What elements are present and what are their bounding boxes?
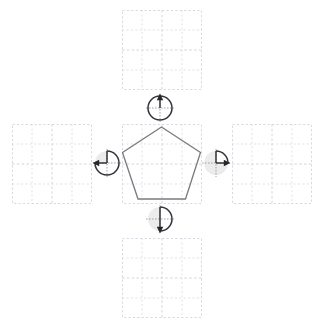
rotation-dial-bottom[interactable]: 180° [146,205,174,233]
top-panel[interactable] [122,10,202,90]
center-panel[interactable] [122,124,202,204]
scene-svg: 360°270°90°180° [0,0,316,321]
left-panel[interactable] [12,124,92,204]
puzzle-canvas: 360°270°90°180° [0,0,316,321]
rotation-dial-left[interactable]: 270° [93,149,121,177]
bottom-panel[interactable] [122,238,202,318]
rotation-dial-right[interactable]: 90° [202,149,230,177]
right-panel[interactable] [232,124,312,204]
rotation-dial-top[interactable]: 360° [146,94,174,122]
